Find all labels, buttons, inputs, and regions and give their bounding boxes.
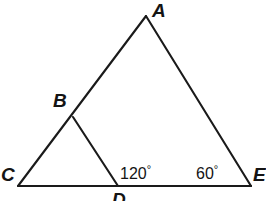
geometry-figure: A B C D E 120° 60° bbox=[0, 0, 266, 201]
angle-value-d: 120 bbox=[120, 165, 147, 182]
angle-measure-at-d: 120° bbox=[120, 164, 151, 182]
angle-measure-at-e: 60° bbox=[196, 164, 218, 182]
vertex-label-a: A bbox=[152, 1, 166, 20]
vertex-label-d: D bbox=[112, 190, 126, 201]
degree-symbol-d: ° bbox=[147, 163, 151, 175]
vertex-label-c: C bbox=[1, 165, 15, 184]
vertex-label-b: B bbox=[53, 91, 67, 110]
angle-value-e: 60 bbox=[196, 165, 214, 182]
vertex-label-e: E bbox=[253, 165, 266, 184]
degree-symbol-e: ° bbox=[214, 163, 218, 175]
